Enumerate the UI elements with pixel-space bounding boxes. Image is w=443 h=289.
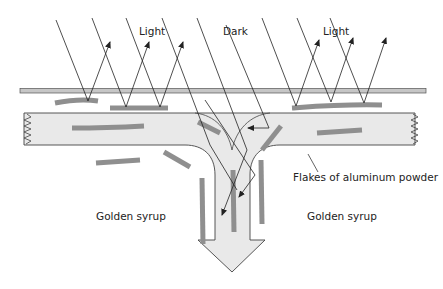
label-dark: Dark [223,26,248,37]
flakes-leader-line [308,154,318,172]
label-light-right: Light [323,26,349,37]
flow-diagram [0,0,443,289]
glass-plate [20,89,426,94]
label-syrup-left: Golden syrup [96,211,166,222]
flow-channel [24,113,418,272]
label-flakes: Flakes of aluminum powder [293,172,438,183]
label-light-left: Light [139,26,165,37]
label-syrup-right: Golden syrup [307,211,377,222]
